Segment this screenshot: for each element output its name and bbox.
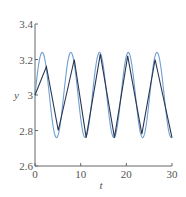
y-tick-label: 3.2 xyxy=(19,54,33,66)
y-axis-label: y xyxy=(13,89,19,101)
y-tick-label: 3 xyxy=(28,89,34,101)
chart: 2.62.833.23.4 0102030 y t xyxy=(0,0,186,197)
x-axis-label: t xyxy=(99,179,103,191)
series-line-sinusoid xyxy=(35,52,172,137)
x-tick-label: 30 xyxy=(167,168,179,180)
y-tick-label: 3.4 xyxy=(19,18,33,30)
x-tick-label: 20 xyxy=(121,168,133,180)
x-tick-label: 0 xyxy=(32,168,38,180)
axes xyxy=(35,24,172,166)
x-tick-label: 10 xyxy=(75,168,87,180)
y-tick-label: 2.8 xyxy=(19,125,33,137)
series-group xyxy=(35,52,172,137)
